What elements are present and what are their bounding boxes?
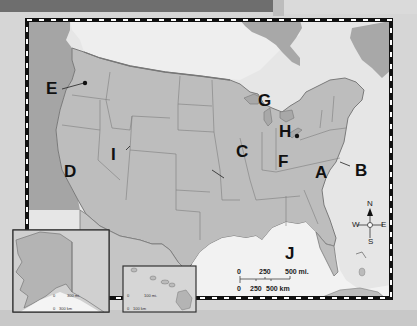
hawaii-scale-mi-100: 100 mi. <box>144 294 157 298</box>
hawaii-scale-km-100: 100 km <box>133 307 146 311</box>
scale-mi-250: 250 <box>259 268 271 275</box>
label-h: H <box>279 123 291 140</box>
alaska-scale-mi-0: 0 <box>53 294 55 298</box>
label-c: C <box>236 143 248 160</box>
label-a: A <box>315 164 327 181</box>
compass-w: W <box>352 221 360 229</box>
hawaii-scale-km-0: 0 <box>127 307 129 311</box>
scale-mi-500: 500 mi. <box>285 268 309 275</box>
compass-e: E <box>381 221 386 229</box>
hawaii-scale-mi-0: 0 <box>127 294 129 298</box>
alaska-scale-mi-300: 300 mi. <box>67 294 80 298</box>
scale-km-250: 250 <box>250 285 262 292</box>
alaska-inset <box>13 230 109 312</box>
label-b: B <box>355 162 367 179</box>
label-d: D <box>64 163 76 180</box>
alaska-scale-km-0: 0 <box>53 307 55 311</box>
scale-mi-0: 0 <box>237 268 241 275</box>
label-e: E <box>46 80 57 97</box>
scale-km-0: 0 <box>237 285 241 292</box>
alaska-scale-km-300: 300 km <box>59 307 72 311</box>
compass-n: N <box>367 200 373 208</box>
compass-s: S <box>368 238 373 246</box>
scale-km-500: 500 km <box>266 285 290 292</box>
label-i: I <box>111 146 116 163</box>
label-j: J <box>285 245 294 262</box>
label-f: F <box>278 153 288 170</box>
label-g: G <box>258 92 271 109</box>
